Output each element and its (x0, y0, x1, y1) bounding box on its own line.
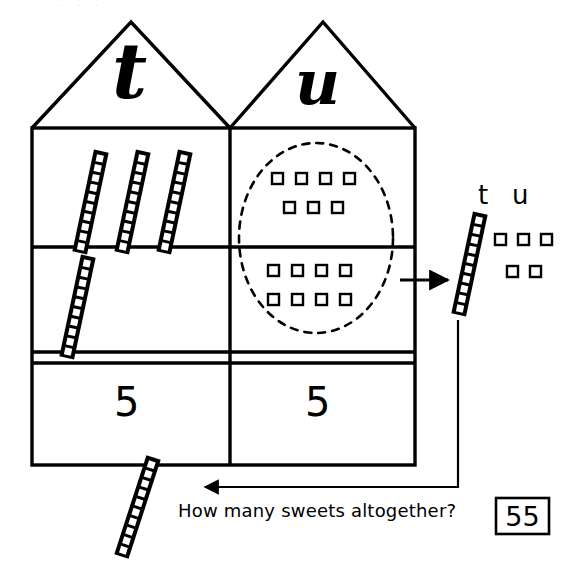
unit-square (272, 173, 283, 184)
unit-square (541, 234, 552, 245)
tens-rod (59, 255, 95, 360)
unit-square (507, 266, 518, 277)
unit-square (316, 265, 327, 276)
unit-square (284, 202, 295, 213)
tens-rods-row-1 (72, 150, 192, 255)
tens-rod (72, 150, 108, 255)
unit-square (530, 266, 541, 277)
unit-square (296, 173, 307, 184)
house-outline (32, 22, 415, 465)
worksheet-drawing (0, 0, 575, 566)
unit-square (292, 265, 303, 276)
carried-tens-rod (114, 455, 160, 559)
unit-square (332, 202, 343, 213)
exchanged-tens-rod (451, 212, 487, 317)
unit-square (316, 294, 327, 305)
unit-square (268, 265, 279, 276)
unit-squares-row-2 (268, 265, 351, 305)
exchanged-unit-squares (495, 234, 552, 277)
unit-square (292, 294, 303, 305)
unit-square (344, 173, 355, 184)
roof-letter-tens: t (112, 34, 147, 110)
unit-square (340, 294, 351, 305)
unit-square (268, 294, 279, 305)
unit-squares-row-1 (272, 173, 355, 213)
tens-rod (114, 455, 160, 559)
roof-letter-units: u (295, 52, 340, 114)
tens-rod (114, 150, 150, 255)
tens-rod (156, 150, 192, 255)
unit-square (340, 265, 351, 276)
question-prompt: How many sweets altogether? (178, 500, 456, 521)
unit-square (308, 202, 319, 213)
answer-digit-tens: 5 (114, 382, 139, 422)
carry-connector-path (205, 320, 458, 487)
unit-square (495, 234, 506, 245)
unit-square (518, 234, 529, 245)
unit-square (320, 173, 331, 184)
exchange-column-label-units: u (512, 182, 528, 208)
total-answer-value: 55 (497, 499, 548, 533)
tens-rod (451, 212, 487, 317)
answer-digit-units: 5 (305, 382, 330, 422)
tens-rods-row-2 (59, 255, 95, 360)
exchange-column-label-tens: t (478, 182, 488, 208)
worksheet-canvas: · · · (0, 0, 575, 566)
